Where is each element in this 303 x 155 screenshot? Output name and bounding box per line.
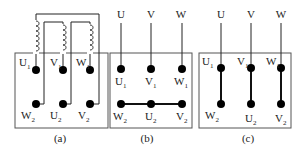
supply-label-u: U (117, 8, 125, 20)
terminal-u1 (32, 66, 40, 74)
terminal-u2 (59, 100, 67, 108)
label-w2: W2 (205, 109, 219, 124)
label-w2: W2 (113, 110, 127, 125)
label-v2: V2 (176, 110, 188, 125)
label-v1: V1 (50, 56, 62, 71)
label-v2: V2 (78, 109, 90, 124)
label-v1: V1 (145, 75, 157, 90)
label-u1: U1 (202, 55, 214, 70)
label-w1: W1 (174, 75, 188, 90)
supply-label-w: W (176, 8, 187, 20)
terminal-u2 (147, 100, 155, 108)
terminal-w2 (32, 100, 40, 108)
terminal-u2 (247, 100, 255, 108)
terminal-v2 (178, 100, 186, 108)
terminal-u1 (217, 64, 225, 72)
label-v2: V2 (275, 112, 287, 127)
panel-a: U1 V1 W1 W2 U2 V2 (a) (15, 14, 108, 145)
coil-icon-u (33, 20, 39, 54)
label-v1: V1 (237, 55, 249, 70)
label-u2: U2 (245, 112, 257, 127)
motor-terminal-diagram: U1 V1 W1 W2 U2 V2 (a) U V W U1 V1 W1 W2 … (0, 0, 303, 155)
label-u2: U2 (50, 109, 62, 124)
panel-b: U V W U1 V1 W1 W2 U2 V2 (b) (110, 8, 192, 145)
panel-c: U V W U1 V1 W1 W2 U2 V2 (c) (199, 8, 291, 145)
supply-label-v: V (147, 8, 155, 20)
label-u1: U1 (115, 75, 127, 90)
terminal-w2 (217, 100, 225, 108)
caption-b: (b) (141, 132, 154, 145)
terminal-v2 (86, 100, 94, 108)
supply-label-v: V (247, 8, 255, 20)
label-u1: U1 (19, 56, 31, 71)
coil-icon-v (60, 24, 66, 54)
label-u2: U2 (145, 110, 157, 125)
supply-label-u: U (217, 8, 225, 20)
supply-label-w: W (276, 8, 287, 20)
terminal-w2 (117, 100, 125, 108)
terminal-w1 (178, 65, 186, 73)
label-w1: W1 (266, 55, 280, 70)
label-w2: W2 (21, 109, 35, 124)
terminal-v1 (147, 65, 155, 73)
caption-c: (c) (242, 132, 255, 145)
label-w1: W1 (76, 56, 90, 71)
coil-icon-w (87, 24, 93, 54)
terminal-v2 (277, 100, 285, 108)
caption-a: (a) (54, 132, 67, 145)
terminal-u1 (117, 65, 125, 73)
